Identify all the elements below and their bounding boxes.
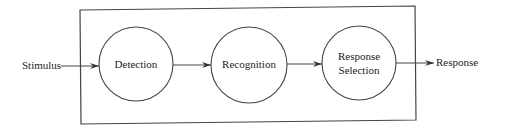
recognition-label: Recognition [222,58,276,70]
stimulus-label: Stimulus [22,59,61,71]
node-recognition: Recognition [211,27,287,103]
detection-label: Detection [115,58,158,70]
information-processing-diagram: Stimulus Detection Recognition Response … [0,0,505,131]
response-selection-label-line1: Response [338,50,380,62]
node-detection: Detection [99,27,173,101]
response-label: Response [436,56,478,68]
node-response-selection: Response Selection [322,26,396,100]
response-selection-label-line2: Selection [339,64,380,76]
